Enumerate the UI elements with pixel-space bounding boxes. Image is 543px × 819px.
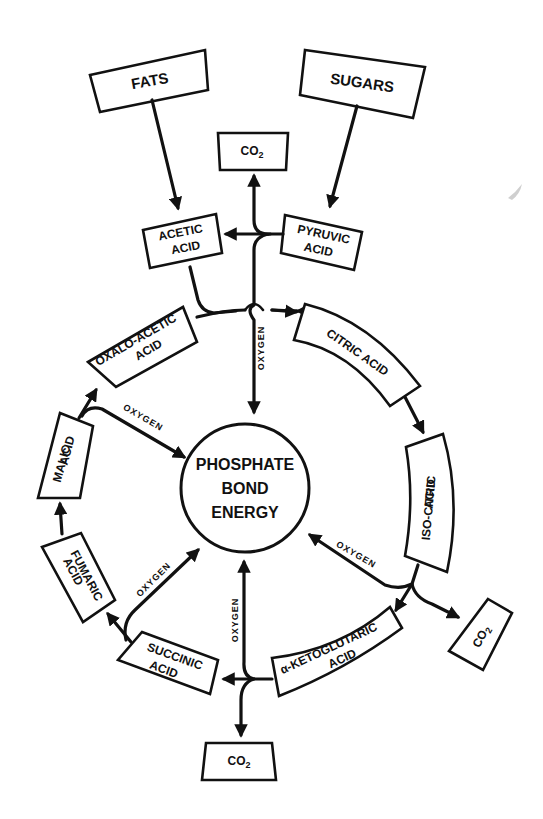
arrow-isocitric-to-co2 bbox=[412, 584, 458, 617]
fats-box: FATS bbox=[90, 50, 208, 112]
succinic-acid-box: SUCCINIC ACID bbox=[118, 632, 218, 694]
center-label-3: ENERGY bbox=[211, 504, 279, 521]
oxaloacetic-acid-box: OXALO-ACETIC ACID bbox=[88, 307, 197, 387]
arrow-citric-to-isocitric bbox=[405, 397, 423, 432]
arrow-sugars-to-pyruvic bbox=[330, 106, 357, 206]
krebs-cycle-diagram: FATS SUGARS CO2 ACETIC ACID PYRUVIC ACID… bbox=[0, 0, 543, 819]
arrow-pyruvic-to-co2 bbox=[254, 176, 268, 234]
oxygen-label-top: OXYGEN bbox=[256, 326, 266, 371]
bridge-hump bbox=[245, 304, 263, 310]
arrow-ketoglutaric-oxygen-to-center bbox=[244, 562, 272, 679]
arrow-ketoglutaric-to-co2 bbox=[241, 679, 254, 735]
fumaric-acid-box: FUMARIC ACID bbox=[42, 533, 115, 622]
isocitric-label-2: ACID bbox=[422, 478, 439, 509]
oxygen-label-bottom: OXYGEN bbox=[230, 598, 240, 643]
co2-box-right: CO2 bbox=[449, 599, 512, 670]
isocitric-acid-box: ISO-CITRIC ACID bbox=[405, 434, 454, 572]
co2-box-bottom: CO2 bbox=[202, 743, 276, 780]
smudge-mark bbox=[508, 184, 522, 200]
acetic-acid-box: ACETIC ACID bbox=[143, 214, 222, 268]
phosphate-bond-energy-node: PHOSPHATE BOND ENERGY bbox=[181, 424, 309, 552]
center-label-2: BOND bbox=[221, 480, 268, 497]
center-label-1: PHOSPHATE bbox=[196, 456, 295, 473]
malic-acid-box: MALIC ACID bbox=[38, 413, 93, 498]
ketoglutaric-acid-box: α-KETOGLUTARIC ACID bbox=[272, 607, 402, 696]
arrow-pyruvic-oxygen-to-center bbox=[250, 234, 270, 412]
pyruvic-acid-box: PYRUVIC ACID bbox=[281, 215, 362, 270]
arrow-acetic-to-citric-end bbox=[272, 310, 296, 312]
citric-acid-box: CITRIC ACID bbox=[294, 304, 420, 406]
oxygen-label-left-top: OXYGEN bbox=[122, 402, 166, 433]
co2-box-top: CO2 bbox=[218, 133, 288, 170]
sugars-box: SUGARS bbox=[300, 50, 425, 118]
arrow-fumaric-to-malic bbox=[60, 504, 62, 534]
arrow-fats-to-acetic bbox=[152, 100, 178, 208]
arrow-acetic-to-citric bbox=[190, 267, 298, 313]
